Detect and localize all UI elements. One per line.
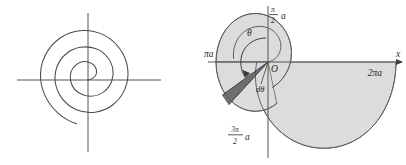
label-y-axis-value-numerator: π <box>271 5 275 14</box>
label-d-theta: dθ <box>256 84 264 94</box>
label-y-axis-value-unit: a <box>281 11 286 21</box>
left-spiral-figure <box>0 0 203 165</box>
figure-panel: π 2 a πa 2πa x O θ dθ 3π 2 a <box>0 0 406 165</box>
label-y-axis-negative-numerator: 3π <box>230 125 239 134</box>
left-archimedean-spiral <box>40 30 128 123</box>
label-theta: θ <box>247 28 252 38</box>
label-x-axis-name: x <box>395 49 401 59</box>
label-y-axis-negative-denominator: 2 <box>233 137 237 146</box>
label-x-axis-negative: πa <box>204 49 214 59</box>
label-x-axis-positive: 2πa <box>368 68 383 78</box>
label-y-axis-negative-unit: a <box>245 132 250 142</box>
label-y-axis-negative: 3π 2 a <box>228 125 250 146</box>
label-origin: O <box>271 64 278 74</box>
right-spiral-figure: π 2 a πa 2πa x O θ dθ 3π 2 a <box>203 0 406 165</box>
label-y-axis-value-denominator: 2 <box>271 16 275 25</box>
